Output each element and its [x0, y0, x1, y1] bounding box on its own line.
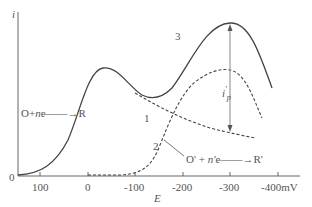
arrow-head-up: [228, 24, 233, 31]
arrow-head-down: [228, 125, 233, 132]
curve-1-dashed: [135, 93, 255, 138]
tick-label-m400: -400mV: [261, 182, 298, 193]
origin-label: 0: [9, 172, 15, 183]
x-axis-label: E: [154, 193, 161, 204]
peak-current-label: i'p: [222, 86, 231, 102]
x-ticks: [40, 172, 278, 176]
tick-label-m100: -100: [124, 182, 144, 193]
curve-label-1: 1: [144, 113, 150, 124]
voltammogram-chart: [0, 0, 312, 207]
y-axis-label: i: [12, 9, 15, 20]
reaction-1-label: O+ne——→R: [21, 108, 86, 119]
curve-label-2: 2: [153, 141, 159, 152]
tick-label-0: 0: [85, 182, 91, 193]
curve-label-3: 3: [175, 31, 181, 42]
tick-label-m300: -300: [219, 182, 239, 193]
reaction2-leader: [164, 140, 184, 156]
tick-label-m200: -200: [172, 182, 192, 193]
tick-label-100: 100: [32, 182, 49, 193]
reaction-2-label: O' + n'e——→R': [186, 154, 263, 165]
